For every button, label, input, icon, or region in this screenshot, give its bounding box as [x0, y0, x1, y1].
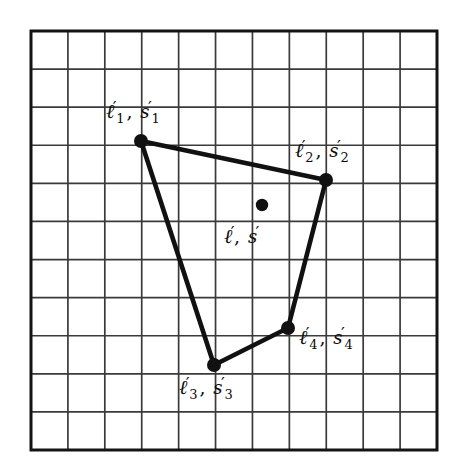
label-comma: ,	[234, 225, 248, 247]
point-label-v4: ℓ′4, s′4	[299, 325, 355, 351]
point-label-centroid: ℓ′, s′	[224, 224, 259, 246]
vertex-marker-v2	[319, 173, 333, 187]
point-label-v1: ℓ′1, s′1	[106, 99, 162, 125]
s-subscript: 4	[344, 337, 354, 352]
point-label-v3: ℓ′3, s′3	[179, 375, 235, 401]
figure-canvas: ℓ′1, s′1ℓ′2, s′2ℓ′3, s′3ℓ′4, s′4ℓ′, s′	[0, 0, 461, 466]
ell-subscript: 2	[305, 150, 315, 165]
label-comma: ,	[126, 100, 140, 122]
ell-subscript: 1	[116, 111, 126, 126]
vertex-marker-v3	[207, 358, 221, 372]
vertex-marker-v1	[134, 134, 148, 148]
s-subscript: 3	[224, 387, 234, 402]
vertex-marker-v4	[281, 321, 295, 335]
ell-subscript: 4	[309, 337, 319, 352]
label-comma: ,	[315, 139, 329, 161]
ell-subscript: 3	[189, 387, 199, 402]
label-comma: ,	[199, 376, 213, 398]
s-prime-glyph: ′	[256, 222, 260, 242]
s-subscript: 1	[151, 111, 161, 126]
interior-point-marker	[256, 199, 268, 211]
point-label-v2: ℓ′2, s′2	[295, 138, 351, 164]
label-comma: ,	[319, 326, 333, 348]
s-subscript: 2	[340, 150, 350, 165]
